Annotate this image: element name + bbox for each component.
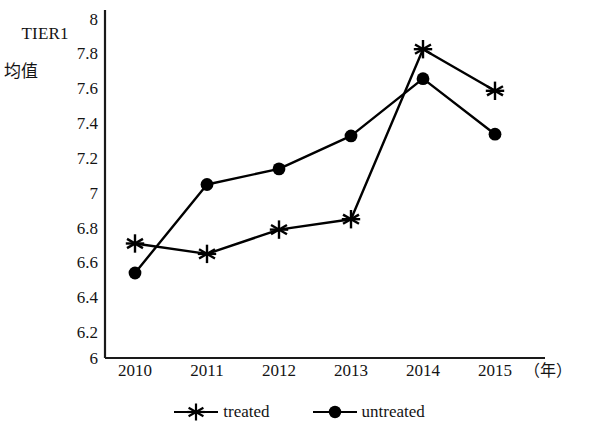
line-chart: TIER1 均值 8 7.8 7.6 7.4 7.2 7 6.8 6.6 6.4… — [0, 0, 598, 428]
data-point-marker — [417, 72, 430, 85]
x-tick-label: 2014 — [388, 362, 458, 380]
data-point-marker — [342, 210, 360, 228]
data-point-marker — [489, 128, 502, 141]
x-tick-label: 2012 — [244, 362, 314, 380]
x-tick-label: 2015 — [460, 362, 530, 380]
x-tick-label: 2011 — [172, 362, 242, 380]
data-point-marker — [414, 40, 432, 58]
circle-marker-icon — [312, 402, 358, 422]
x-axis-unit-label: （年） — [524, 362, 598, 380]
legend-entry-untreated: untreated — [312, 402, 425, 422]
data-point-marker — [198, 245, 216, 263]
legend-label-untreated: untreated — [362, 403, 425, 421]
x-tick-label: 2010 — [100, 362, 170, 380]
series-line — [135, 79, 495, 273]
chart-legend: treated untreated — [0, 398, 598, 426]
data-point-marker — [126, 234, 144, 252]
data-point-marker — [486, 82, 504, 100]
legend-label-treated: treated — [223, 403, 269, 421]
asterisk-marker-icon — [173, 402, 219, 422]
series-untreated — [129, 72, 502, 279]
data-point-marker — [273, 162, 286, 175]
x-tick-label: 2013 — [316, 362, 386, 380]
data-point-marker — [129, 267, 142, 280]
data-point-marker — [345, 130, 358, 143]
data-point-marker — [201, 178, 214, 191]
data-point-marker — [270, 220, 288, 238]
series-layer — [126, 40, 504, 279]
legend-entry-treated: treated — [173, 402, 269, 422]
